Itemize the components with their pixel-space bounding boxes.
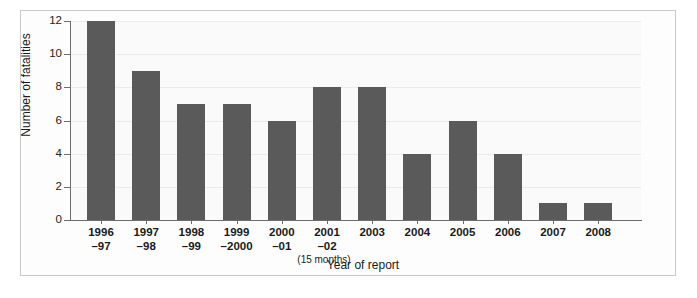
x-tick-mark	[372, 220, 373, 224]
x-tick-mark	[598, 220, 599, 224]
x-tick-label-line1: 2006	[495, 226, 521, 238]
figure: 024681012 Number of fatalities 1996–9719…	[0, 0, 697, 298]
x-tick-mark	[327, 220, 328, 224]
x-tick-mark	[553, 220, 554, 224]
x-tick-label-line1: 2005	[450, 226, 476, 238]
x-tick-label-line1: 2000	[269, 226, 295, 238]
x-tick-label-line1: 2007	[540, 226, 566, 238]
x-tick-mark	[191, 220, 192, 224]
x-tick-label-line1: 1997	[133, 226, 159, 238]
x-tick-label-line1: 1999	[224, 226, 250, 238]
x-tick-label-line1: 2003	[359, 226, 385, 238]
x-tick-label-line1: 1998	[179, 226, 205, 238]
figure-caption	[38, 288, 678, 298]
x-tick-label-line1: 2008	[585, 226, 611, 238]
x-tick-mark	[237, 220, 238, 224]
x-tick-label-line1: 2004	[405, 226, 431, 238]
x-tick-mark	[282, 220, 283, 224]
x-axis-ticks: 1996–971997–981998–991999–20002000–01200…	[0, 0, 697, 298]
x-tick-label-line1: 1996	[88, 226, 114, 238]
x-tick-mark	[146, 220, 147, 224]
x-tick-mark	[417, 220, 418, 224]
x-tick-mark	[463, 220, 464, 224]
x-tick-mark	[508, 220, 509, 224]
x-axis-title: Year of report	[292, 258, 434, 272]
x-tick-mark	[101, 220, 102, 224]
x-tick-label-line1: 2001	[314, 226, 340, 238]
x-tick-label: 2008	[567, 226, 629, 240]
x-tick-label-line2: –02	[296, 240, 358, 254]
